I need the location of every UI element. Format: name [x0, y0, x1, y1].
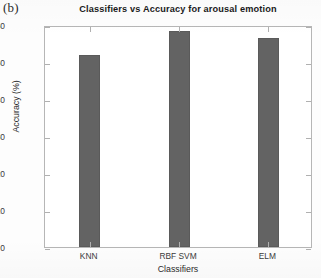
plot-area	[44, 26, 312, 248]
x-tick-label-elm: ELM	[259, 252, 276, 260]
x-tick-mark	[179, 242, 180, 247]
bar-knn	[79, 55, 100, 247]
y-tick-mark	[306, 27, 311, 28]
y-tick-label-50: 50	[0, 59, 5, 67]
y-tick-mark	[306, 175, 311, 176]
y-tick-mark	[45, 249, 50, 250]
x-tick-mark	[268, 242, 269, 247]
y-tick-label-0: 0	[0, 244, 5, 252]
y-tick-label-40: 40	[0, 96, 5, 104]
bars-layer	[45, 27, 311, 247]
y-tick-mark	[45, 27, 50, 28]
y-tick-mark	[45, 175, 50, 176]
x-tick-mark	[90, 27, 91, 32]
y-tick-mark	[306, 101, 311, 102]
y-tick-label-30: 30	[0, 133, 5, 141]
y-tick-mark	[306, 249, 311, 250]
x-axis-label: Classifiers	[44, 265, 312, 274]
x-tick-mark	[268, 27, 269, 32]
y-axis-label: Accuracy (%)	[12, 6, 21, 206]
y-tick-mark	[45, 212, 50, 213]
x-tick-mark	[179, 27, 180, 32]
y-tick-mark	[45, 101, 50, 102]
chart-title: Classifiers vs Accuracy for arousal emot…	[44, 4, 312, 14]
x-tick-mark	[90, 242, 91, 247]
y-tick-mark	[306, 212, 311, 213]
x-tick-label-rbf-svm: RBF SVM	[159, 252, 196, 260]
x-tick-label-knn: KNN	[80, 252, 98, 260]
y-tick-label-20: 20	[0, 170, 5, 178]
bar-rbf-svm	[169, 31, 190, 247]
bar-elm	[258, 38, 279, 247]
y-tick-mark	[306, 64, 311, 65]
y-tick-mark	[306, 138, 311, 139]
y-tick-label-60: 60	[0, 22, 5, 30]
figure-canvas: (b) Classifiers vs Accuracy for arousal …	[0, 0, 321, 278]
y-tick-mark	[45, 64, 50, 65]
y-tick-label-10: 10	[0, 207, 5, 215]
y-tick-mark	[45, 138, 50, 139]
